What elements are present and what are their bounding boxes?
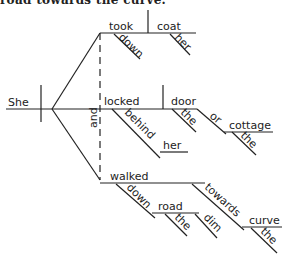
prep-object-road: road (158, 200, 183, 213)
verb-took: took (109, 20, 134, 33)
modifier-her: her (172, 31, 194, 54)
modifier-dim: dim (201, 211, 225, 235)
conjunction-or: or (207, 109, 224, 126)
preposition-down: down (124, 181, 154, 211)
sentence-diagram: She and took coat down her locked door b… (0, 0, 288, 260)
conjunction-and: and (87, 107, 100, 128)
modifier-the-curve: the (258, 225, 280, 247)
modifier-down: down (116, 31, 146, 61)
compound-predicate-fork: and (52, 33, 100, 180)
subject-word: She (8, 96, 29, 109)
predicate-locked: locked door behind her the or cottage th… (100, 85, 273, 158)
predicate-walked: walked down road the dim towards curve t… (100, 170, 282, 253)
verb-walked: walked (110, 170, 149, 183)
object-door: door (171, 95, 196, 108)
object-cottage: cottage (229, 119, 271, 132)
subject-group: She (6, 85, 52, 122)
predicate-took: took coat down her (100, 10, 196, 61)
prep-object-her: her (163, 139, 182, 152)
verb-locked: locked (104, 95, 140, 108)
prep-object-curve: curve (249, 214, 280, 227)
object-coat: coat (157, 20, 182, 33)
modifier-the-road: the (172, 211, 194, 233)
